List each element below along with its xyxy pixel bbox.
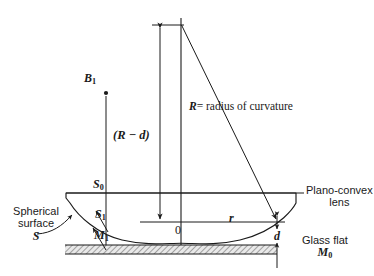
label-s0: S0 — [93, 178, 104, 192]
label-spherical-surface: Spherical surface S — [4, 205, 68, 243]
spherical-surface-line2: surface — [4, 217, 68, 229]
lens-line2: lens — [306, 196, 373, 208]
b1-point-dot — [104, 91, 108, 95]
lens-line1: Plano-convex — [306, 184, 373, 196]
label-origin: 0 — [175, 224, 181, 237]
label-b1: B1 — [84, 72, 96, 86]
spherical-surface-line1: Spherical — [4, 205, 68, 217]
label-radius-of-curvature: R= radius of curvature — [189, 100, 293, 113]
radius-of-curvature-line — [182, 25, 277, 219]
radius-text: = radius of curvature — [197, 100, 293, 112]
label-m1: M1 — [94, 229, 109, 243]
label-gap-d: d — [274, 230, 280, 243]
label-plano-convex-lens: Plano-convex lens — [306, 184, 373, 209]
label-radial-distance-r: r — [229, 212, 234, 225]
label-s1: S1 — [95, 208, 106, 222]
spherical-surface-symbol: S — [4, 230, 68, 243]
label-glass-flat: Glass flat M0 — [302, 234, 348, 260]
glass-flat-block — [65, 245, 277, 254]
label-height-dimension: (R − d) — [113, 128, 150, 142]
label-m0: M0 — [302, 246, 348, 260]
radius-symbol: R — [189, 100, 197, 112]
